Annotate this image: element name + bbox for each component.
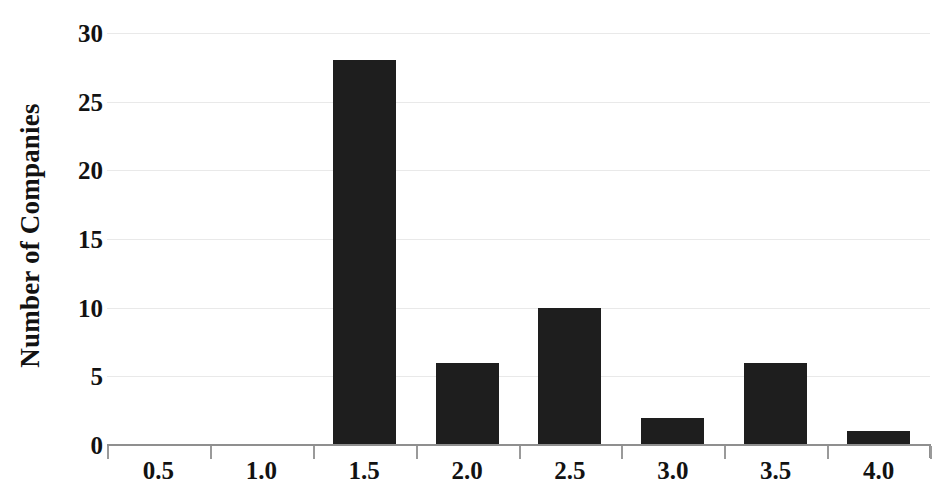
gridline [107,102,930,103]
y-axis-tick-label: 20 [55,158,103,183]
bar [744,363,807,445]
bar [436,363,499,445]
x-axis-tick-label: 0.5 [143,458,174,483]
x-axis-tick-mark [313,446,315,459]
x-axis-tick-mark [210,446,212,459]
y-axis-tick-labels: 051015202530 [55,0,103,494]
x-axis-tick-mark [519,446,521,459]
x-axis-tick-mark [416,446,418,459]
x-axis-tick-label: 1.0 [246,458,277,483]
bar [641,418,704,445]
gridline [107,33,930,34]
y-axis-tick-label: 25 [55,89,103,114]
bar [538,308,601,445]
y-axis-tick-label: 5 [55,364,103,389]
y-axis-title: Number of Companies [0,0,60,470]
x-axis-tick-mark [827,446,829,459]
y-axis-title-text: Number of Companies [15,103,46,367]
gridline [107,239,930,240]
x-axis-tick-label: 1.5 [349,458,380,483]
gridline [107,170,930,171]
x-axis-tick-mark [621,446,623,459]
x-axis-tick-label: 3.5 [760,458,791,483]
y-axis-tick-label: 15 [55,227,103,252]
bar [847,431,910,445]
x-axis-tick-label: 4.0 [863,458,894,483]
x-axis-tick-label: 2.5 [554,458,585,483]
x-axis-tick-mark [724,446,726,459]
x-axis-tick-label: 3.0 [657,458,688,483]
x-axis-tick-mark [107,446,109,459]
y-axis-tick-label: 10 [55,295,103,320]
x-axis-tick-mark [930,446,932,459]
gridline [107,308,930,309]
plot-area [107,33,930,445]
y-axis-tick-label: 30 [55,21,103,46]
x-axis-tick-label: 2.0 [451,458,482,483]
histogram-chart: Number of Companies 051015202530 0.51.01… [0,0,942,494]
bar [333,60,396,445]
y-axis-tick-label: 0 [55,433,103,458]
